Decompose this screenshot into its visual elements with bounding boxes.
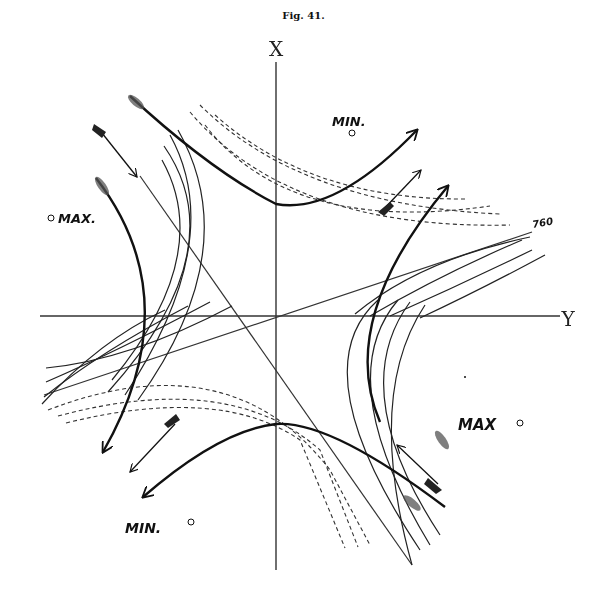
label-max-left: MAX. [58, 211, 96, 226]
max-right-marker [517, 420, 523, 426]
small-arrow-upper-left [98, 128, 137, 177]
label-min-top: MIN. [332, 114, 366, 129]
isobars-solid-lower-right [347, 300, 440, 565]
min-top-marker [349, 130, 355, 136]
arrow-left [96, 178, 145, 452]
label-max-right: MAX [458, 416, 498, 434]
isobars-solid-upper-left [108, 130, 204, 400]
max-left-marker [48, 215, 54, 221]
min-bottom-marker [188, 519, 194, 525]
isobar-760-label: 760 [531, 216, 554, 230]
small-arrow-lower-left [130, 424, 175, 472]
arrow-right [368, 186, 448, 422]
isobars-dashed-lower-left [48, 386, 370, 549]
axes [40, 62, 560, 570]
isobars-solid-right [355, 237, 545, 318]
x-axis-label: X [269, 37, 284, 61]
saddle-diagram: X Y 760 MIN. MAX. MAX MIN. [0, 0, 607, 603]
isobars-solid-lower-left [42, 302, 232, 404]
label-min-bottom: MIN. [125, 520, 161, 536]
y-axis-label: Y [560, 307, 575, 331]
arrow-top [130, 96, 417, 205]
